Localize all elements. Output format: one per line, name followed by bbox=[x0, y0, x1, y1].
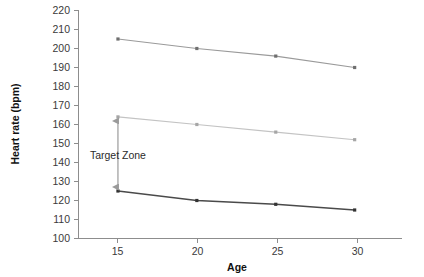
y-tick-label: 200 bbox=[52, 42, 70, 54]
data-point bbox=[195, 123, 198, 126]
data-series-layer bbox=[116, 37, 356, 211]
y-tick-label: 190 bbox=[52, 61, 70, 73]
y-tick-label: 140 bbox=[52, 156, 70, 168]
series-line bbox=[118, 117, 355, 140]
y-tick-label: 220 bbox=[52, 4, 70, 16]
annotation-layer: Target Zone bbox=[90, 121, 146, 187]
chart-figure: 100 110 120 130 140 150 160 170 180 190 … bbox=[0, 0, 424, 277]
data-point bbox=[353, 208, 356, 211]
y-axis-title: Heart rate (bpm) bbox=[9, 83, 21, 164]
data-point bbox=[353, 66, 356, 69]
data-point bbox=[195, 199, 198, 202]
y-tick-label: 120 bbox=[52, 194, 70, 206]
y-axis: 100 110 120 130 140 150 160 170 180 190 … bbox=[9, 4, 79, 244]
x-tick-label: 20 bbox=[192, 245, 204, 257]
data-point bbox=[353, 138, 356, 141]
y-tick-label: 160 bbox=[52, 118, 70, 130]
x-tick-label: 30 bbox=[352, 245, 364, 257]
data-point bbox=[195, 47, 198, 50]
data-point bbox=[274, 203, 277, 206]
x-tick-label: 25 bbox=[272, 245, 284, 257]
y-tick-label: 130 bbox=[52, 175, 70, 187]
series-maximum-heart-rate bbox=[116, 37, 356, 69]
y-axis-tick-labels: 100 110 120 130 140 150 160 170 180 190 … bbox=[52, 4, 70, 244]
y-axis-ticks bbox=[74, 11, 79, 239]
x-axis-tick-labels: 15 20 25 30 bbox=[112, 245, 364, 257]
line-chart-canvas: 100 110 120 130 140 150 160 170 180 190 … bbox=[0, 0, 424, 277]
y-tick-label: 150 bbox=[52, 137, 70, 149]
y-tick-label: 100 bbox=[52, 232, 70, 244]
data-point bbox=[116, 189, 119, 192]
y-tick-label: 180 bbox=[52, 80, 70, 92]
data-point bbox=[274, 131, 277, 134]
data-point bbox=[116, 37, 119, 40]
series-upper-target-heart-rate bbox=[116, 115, 356, 141]
x-axis: 15 20 25 30 Age bbox=[79, 239, 403, 274]
target-zone-label: Target Zone bbox=[90, 149, 146, 161]
y-tick-label: 170 bbox=[52, 99, 70, 111]
x-tick-label: 15 bbox=[112, 245, 124, 257]
series-line bbox=[118, 39, 355, 68]
y-tick-label: 210 bbox=[52, 23, 70, 35]
series-lower-target-heart-rate bbox=[116, 189, 356, 211]
data-point bbox=[116, 115, 119, 118]
series-line bbox=[118, 191, 355, 210]
x-axis-ticks bbox=[118, 239, 358, 244]
y-tick-label: 110 bbox=[53, 213, 70, 225]
x-axis-title: Age bbox=[227, 261, 247, 273]
data-point bbox=[274, 55, 277, 58]
